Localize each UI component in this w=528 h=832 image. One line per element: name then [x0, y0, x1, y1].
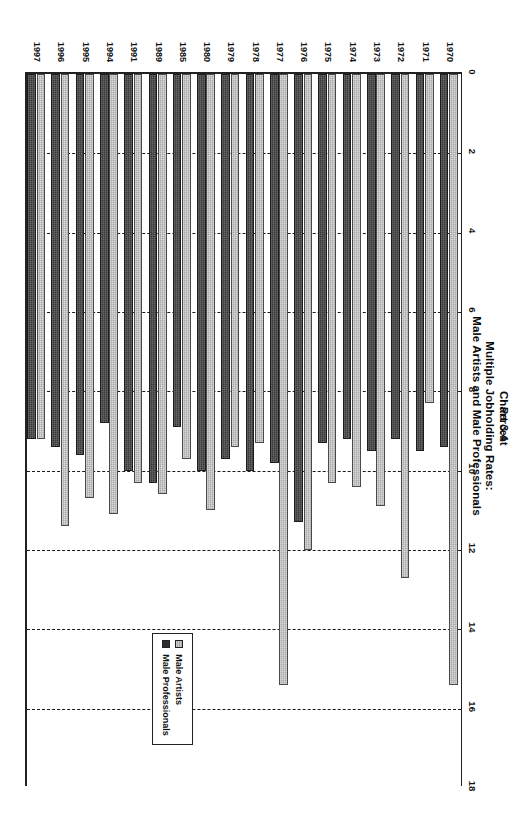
y-category-label-1972: 1972	[396, 22, 406, 62]
y-category-label-1985: 1985	[178, 22, 188, 62]
x-axis-title: Percent	[498, 407, 510, 446]
legend-item-male-artists: Male Artists	[173, 640, 185, 736]
x-tick-label-4: 4	[467, 228, 478, 233]
y-category-label-1991: 1991	[129, 22, 139, 62]
legend-swatch-pros	[162, 640, 170, 648]
x-tick-label-6: 6	[467, 307, 478, 312]
x-tick-label-2: 2	[467, 149, 478, 154]
y-category-label-1977: 1977	[275, 22, 285, 62]
y-category-label-1980: 1980	[202, 22, 212, 62]
x-tick-label-16: 16	[467, 701, 478, 712]
x-tick-label-18: 18	[467, 781, 478, 792]
x-tick-label-8: 8	[467, 387, 478, 392]
y-category-label-1975: 1975	[323, 22, 333, 62]
legend-label: Male Professionals	[160, 654, 172, 736]
y-category-label-1995: 1995	[81, 22, 91, 62]
x-tick-label-0: 0	[467, 69, 478, 74]
legend-label: Male Artists	[173, 654, 185, 705]
x-axis-title-wrap: Percent	[498, 72, 510, 832]
y-category-label-1979: 1979	[226, 22, 236, 62]
y-axis-ticks	[27, 74, 461, 786]
chart-legend: Male ArtistsMale Professionals	[152, 633, 193, 745]
legend-item-male-professionals: Male Professionals	[160, 640, 172, 736]
y-category-label-1970: 1970	[445, 22, 455, 62]
chart-title-line-2: Multiple Jobholding Rates:	[483, 0, 497, 832]
x-axis-tick-labels: 024681012141618	[462, 72, 482, 786]
x-tick-label-12: 12	[467, 543, 478, 554]
y-category-label-1976: 1976	[299, 22, 309, 62]
plot-area: Male ArtistsMale Professionals	[25, 72, 462, 786]
y-axis-category-labels: 1970197119721973197419751976197719781979…	[25, 26, 462, 70]
y-category-label-1971: 1971	[421, 22, 431, 62]
y-category-label-1978: 1978	[251, 22, 261, 62]
y-category-label-1996: 1996	[56, 22, 66, 62]
chart-figure: Chart 3.4 Multiple Jobholding Rates: Mal…	[0, 0, 528, 832]
rotated-page-canvas: Chart 3.4 Multiple Jobholding Rates: Mal…	[0, 0, 528, 832]
y-category-label-1989: 1989	[154, 22, 164, 62]
y-category-label-1973: 1973	[372, 22, 382, 62]
x-tick-label-10: 10	[467, 463, 478, 474]
y-category-label-1997: 1997	[32, 22, 42, 62]
legend-swatch-artists	[175, 640, 183, 648]
y-category-label-1974: 1974	[348, 22, 358, 62]
y-category-label-1994: 1994	[105, 22, 115, 62]
x-tick-label-14: 14	[467, 622, 478, 633]
